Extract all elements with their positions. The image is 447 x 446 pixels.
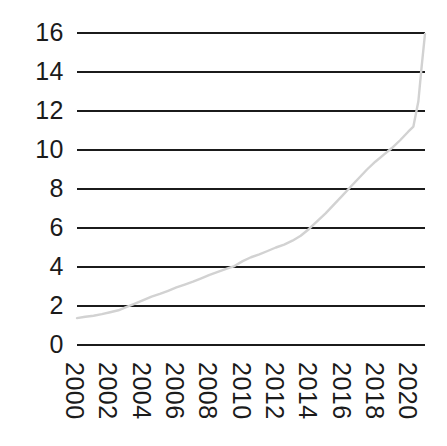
x-axis: 2000 2002 2004 2006 2008 2010 2012 2014 … — [0, 0, 447, 446]
x-tick-label-2006: 2006 — [162, 362, 188, 442]
x-tick-label-2002: 2002 — [95, 362, 121, 442]
x-tick-label-2016: 2016 — [329, 362, 355, 442]
x-tick-label-2000: 2000 — [62, 362, 88, 442]
x-tick-label-2010: 2010 — [229, 362, 255, 442]
x-tick-label-2014: 2014 — [295, 362, 321, 442]
x-tick-label-2008: 2008 — [195, 362, 221, 442]
x-tick-label-2020: 2020 — [395, 362, 421, 442]
x-tick-label-2018: 2018 — [362, 362, 388, 442]
x-tick-label-2004: 2004 — [129, 362, 155, 442]
line-chart: 16 14 12 10 8 6 4 2 0 2000 2 — [0, 0, 447, 446]
x-tick-label-2012: 2012 — [262, 362, 288, 442]
